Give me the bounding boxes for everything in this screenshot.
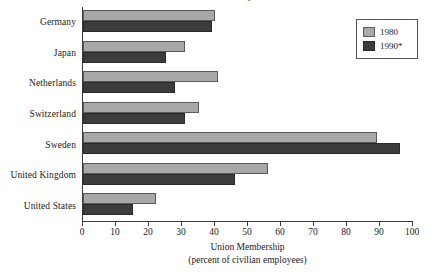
- x-axis-title: Union Membership (percent of civilian em…: [82, 241, 413, 266]
- bars-group: [83, 99, 414, 130]
- legend-label-1980: 1980: [380, 27, 398, 37]
- bar-1990-japan: [83, 52, 166, 63]
- x-tick: [313, 221, 314, 226]
- bars-group: [83, 190, 414, 221]
- bar-1990-netherlands: [83, 82, 175, 93]
- category-label-united-states: United States: [24, 201, 76, 211]
- chart-legend: 1980 1990*: [356, 19, 418, 59]
- bar-row: Sweden: [0, 129, 435, 160]
- x-axis-title-line1: Union Membership: [82, 241, 413, 254]
- x-tick: [346, 221, 347, 226]
- bar-1980-germany: [83, 10, 215, 21]
- x-tick: [412, 221, 413, 226]
- x-tick-label: 100: [405, 227, 419, 237]
- category-label-germany: Germany: [40, 17, 76, 27]
- x-tick-label: 0: [80, 227, 85, 237]
- x-tick-label: 60: [275, 227, 285, 237]
- category-label-switzerland: Switzerland: [30, 109, 76, 119]
- legend-entry-1990: 1990*: [363, 39, 412, 53]
- category-label-sweden: Sweden: [45, 140, 76, 150]
- chart-title: Union Membership: [0, 0, 435, 1]
- x-tick-label: 30: [176, 227, 186, 237]
- x-tick: [379, 221, 380, 226]
- x-tick: [214, 221, 215, 226]
- bar-1990-united-kingdom: [83, 174, 235, 185]
- bar-row: Netherlands: [0, 68, 435, 99]
- bars-group: [83, 68, 414, 99]
- bar-row: United States: [0, 190, 435, 221]
- x-tick-label: 90: [374, 227, 384, 237]
- category-label-netherlands: Netherlands: [29, 78, 76, 88]
- bar-1980-united-states: [83, 193, 156, 204]
- x-tick: [82, 221, 83, 226]
- category-label-japan: Japan: [54, 48, 76, 58]
- bar-chart-figure: Union Membership GermanyJapanNetherlands…: [0, 0, 435, 272]
- x-tick: [247, 221, 248, 226]
- bar-1980-switzerland: [83, 102, 199, 113]
- bar-row: United Kingdom: [0, 160, 435, 191]
- bar-1990-sweden: [83, 143, 400, 154]
- x-tick: [181, 221, 182, 226]
- x-axis-title-line2: (percent of civilian employees): [82, 254, 413, 267]
- x-tick-label: 20: [143, 227, 153, 237]
- x-tick: [148, 221, 149, 226]
- x-tick: [115, 221, 116, 226]
- bar-row: Switzerland: [0, 99, 435, 130]
- x-tick-label: 10: [110, 227, 120, 237]
- bar-1980-sweden: [83, 132, 377, 143]
- x-tick-label: 50: [242, 227, 252, 237]
- bars-group: [83, 160, 414, 191]
- x-tick-label: 80: [341, 227, 351, 237]
- x-tick-label: 70: [308, 227, 318, 237]
- bar-1980-united-kingdom: [83, 163, 268, 174]
- bar-1980-japan: [83, 41, 185, 52]
- legend-swatch-1980-icon: [363, 27, 375, 37]
- bar-1980-netherlands: [83, 71, 218, 82]
- bars-group: [83, 129, 414, 160]
- legend-swatch-1990-icon: [363, 41, 375, 51]
- legend-entry-1980: 1980: [363, 25, 412, 39]
- legend-label-1990: 1990*: [380, 41, 403, 51]
- x-tick: [280, 221, 281, 226]
- x-tick-label: 40: [209, 227, 219, 237]
- bar-1990-switzerland: [83, 113, 185, 124]
- category-label-united-kingdom: United Kingdom: [10, 170, 76, 180]
- bar-1990-united-states: [83, 204, 133, 215]
- bar-1990-germany: [83, 21, 212, 32]
